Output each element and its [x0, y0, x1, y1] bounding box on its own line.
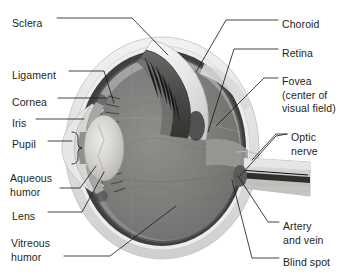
label-pupil: Pupil — [12, 138, 36, 152]
label-sclera: Sclera — [12, 17, 42, 31]
label-iris: Iris — [12, 117, 26, 131]
label-aqueous-humor: Aqueous humor — [10, 172, 52, 199]
label-optic-nerve: Optic nerve — [291, 131, 318, 158]
label-vitreous-humor: Vitreous humor — [11, 237, 50, 264]
label-retina: Retina — [282, 47, 313, 61]
label-cornea: Cornea — [12, 96, 47, 110]
label-lens: Lens — [12, 210, 35, 224]
label-ligament: Ligament — [12, 69, 56, 83]
label-choroid: Choroid — [282, 18, 319, 32]
eye-anatomy-figure: ScleraLigamentCorneaIrisPupilAqueous hum… — [0, 0, 347, 280]
label-blind-spot: Blind spot — [283, 256, 330, 270]
label-artery-vein: Artery and vein — [283, 220, 324, 247]
label-fovea: Fovea (center of visual field) — [282, 75, 336, 116]
fovea-region — [187, 111, 205, 141]
